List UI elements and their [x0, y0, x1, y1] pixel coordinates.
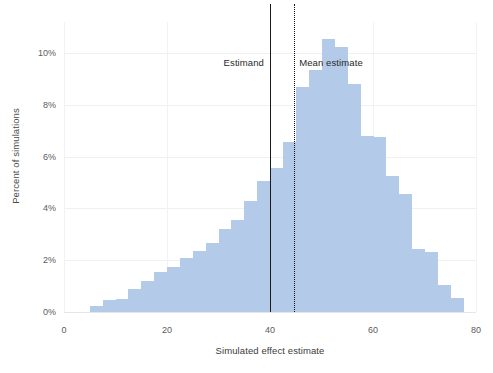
- x-tick-label: 60: [368, 325, 378, 335]
- x-axis-ticks: 020406080: [0, 0, 493, 373]
- histogram-figure: Percent of simulations 0%2%4%6%8%10% Est…: [0, 0, 493, 373]
- x-axis-label: Simulated effect estimate: [75, 345, 465, 356]
- x-tick-label: 0: [61, 325, 66, 335]
- x-tick-label: 40: [265, 325, 275, 335]
- x-tick-label: 20: [162, 325, 172, 335]
- x-tick-label: 80: [471, 325, 481, 335]
